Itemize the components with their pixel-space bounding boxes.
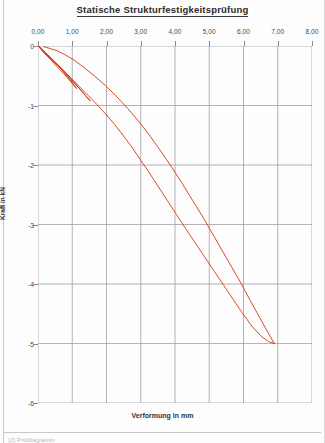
data-series-lines <box>38 46 312 403</box>
y-axis-tick-labels: 0-1-2-3-4-5-6 <box>8 46 34 403</box>
scanned-page: Statische Strukturfestigkeitsprüfung 0,0… <box>0 0 325 443</box>
y-tick-label: -3 <box>12 221 34 228</box>
x-tick-label: 7,00 <box>271 28 284 35</box>
series-line <box>43 47 274 344</box>
y-tick-label: -5 <box>12 340 34 347</box>
y-tick-label: -2 <box>12 162 34 169</box>
x-tick-label: 4,00 <box>169 28 182 35</box>
x-axis-label: Verformung in mm <box>0 412 325 419</box>
x-tick-label: 0,00 <box>32 28 45 35</box>
x-tick-label: 2,00 <box>100 28 113 35</box>
series-line <box>39 47 77 89</box>
x-tick-label: 3,00 <box>134 28 147 35</box>
y-tick-label: -6 <box>12 400 34 407</box>
y-tick-mark <box>33 403 38 404</box>
x-tick-mark <box>312 41 313 46</box>
y-axis-label: Kraft in kN <box>0 187 6 220</box>
y-tick-label: -1 <box>12 102 34 109</box>
x-tick-label: 5,00 <box>203 28 216 35</box>
series-line <box>39 47 274 344</box>
plot-area <box>38 46 312 403</box>
y-tick-label: -4 <box>12 281 34 288</box>
x-axis-tick-labels: 0,001,002,003,004,005,006,007,008,00 <box>38 0 312 18</box>
page-edge-left <box>3 0 4 443</box>
page-edge-bottom <box>3 432 321 433</box>
x-tick-label: 6,00 <box>237 28 250 35</box>
y-tick-label: 0 <box>12 43 34 50</box>
x-tick-label: 1,00 <box>66 28 79 35</box>
x-tick-label: 8,00 <box>306 28 319 35</box>
footer-caption: (2) Prüfdiagramm <box>8 437 55 443</box>
